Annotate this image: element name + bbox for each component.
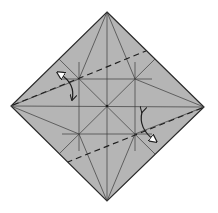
origami-diagram [0,0,218,213]
center-point [106,105,109,108]
